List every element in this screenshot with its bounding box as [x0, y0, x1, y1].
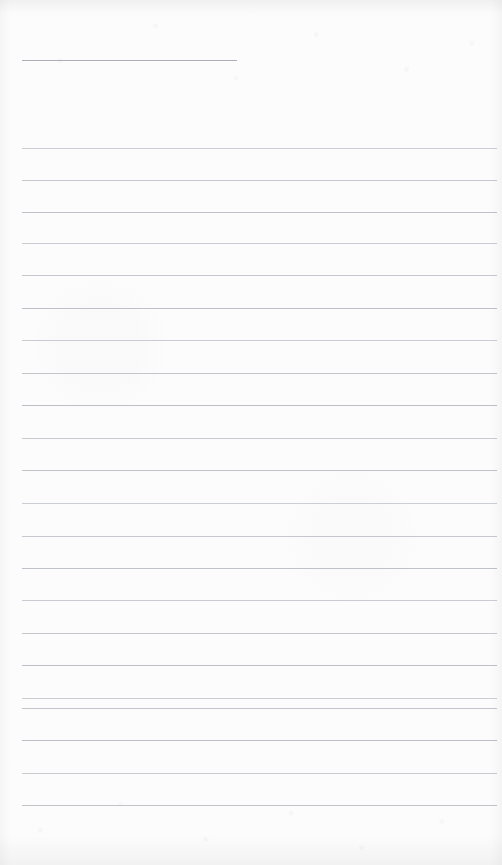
ruled-line: [22, 503, 497, 504]
ruled-line: [22, 568, 497, 569]
ruled-line: [22, 405, 497, 406]
ruled-line: [22, 633, 497, 634]
header-rule: [22, 60, 237, 61]
ruled-line: [22, 148, 497, 149]
ruled-line: [22, 180, 497, 181]
ruled-line: [22, 212, 497, 213]
ruled-line: [22, 275, 497, 276]
ruled-line: [22, 373, 497, 374]
ruled-line: [22, 243, 497, 244]
paper-background: [0, 0, 502, 865]
ruled-line: [22, 438, 497, 439]
ruled-line: [22, 805, 497, 806]
ruled-line: [22, 536, 497, 537]
ruled-line: [22, 665, 497, 666]
ruled-line: [22, 470, 497, 471]
ruled-line: [22, 740, 497, 741]
ruled-line: [22, 773, 497, 774]
ruled-line: [22, 340, 497, 341]
ruled-line: [22, 308, 497, 309]
ruled-line: [22, 708, 497, 709]
ruled-line: [22, 698, 497, 699]
ruled-line: [22, 600, 497, 601]
scanned-page: [0, 0, 502, 865]
